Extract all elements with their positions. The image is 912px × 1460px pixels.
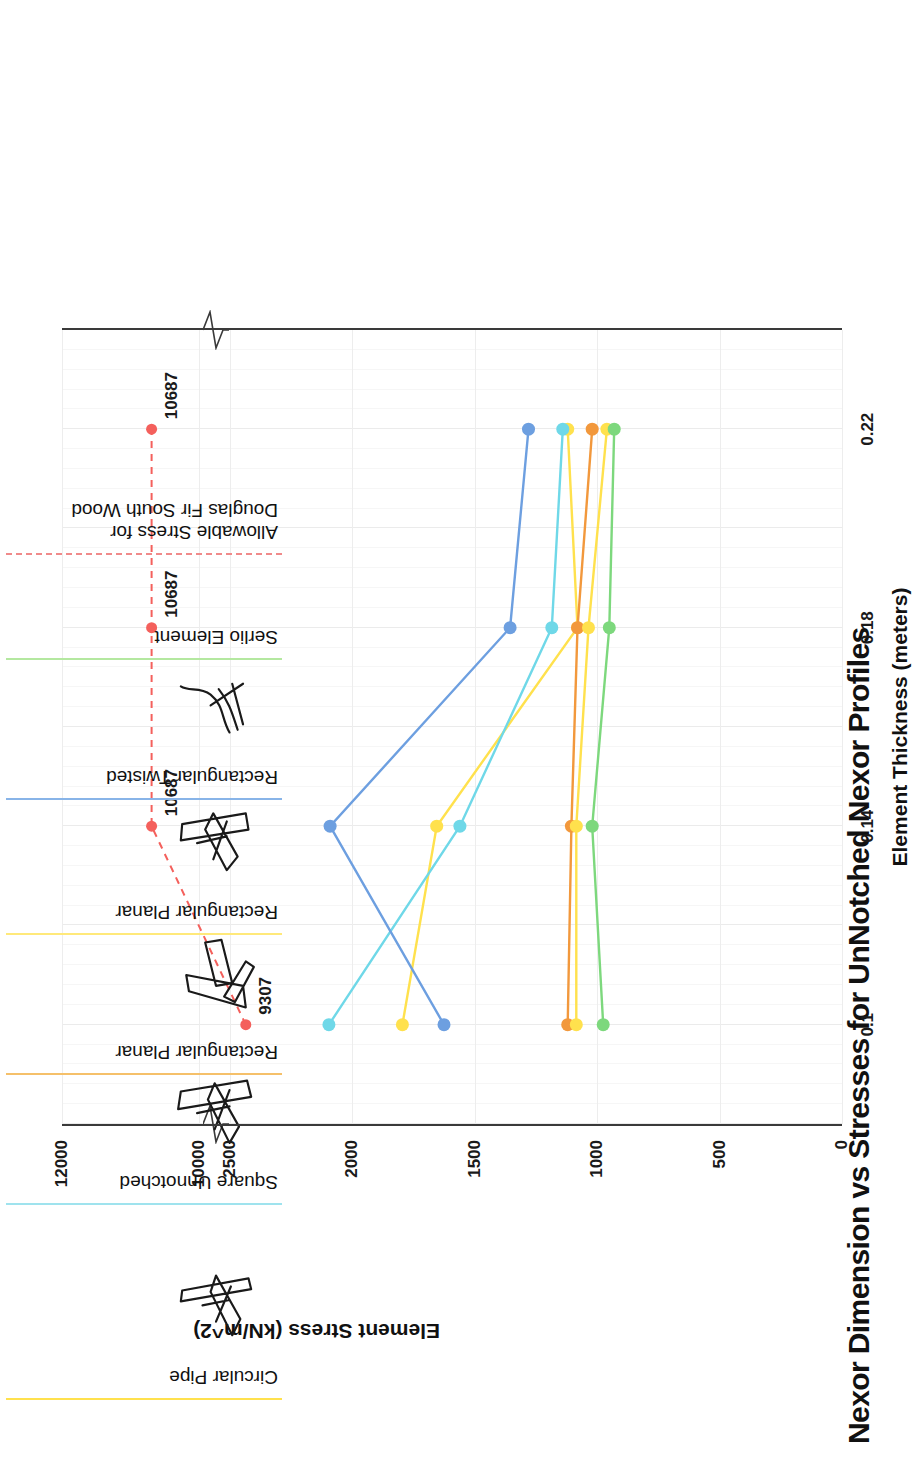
series-marker [322, 1018, 335, 1031]
legend-color-rule [6, 1398, 282, 1400]
legend-color-rule [6, 1073, 282, 1075]
stress-tick-label: 1000 [587, 1140, 607, 1178]
thickness-tick-label: 0.1 [858, 1013, 878, 1037]
thickness-tick-label: 0.22 [858, 413, 878, 446]
nexor-rectangular-twisted-icon [170, 654, 262, 746]
series-marker [453, 820, 466, 833]
series-marker [504, 621, 517, 634]
legend-color-rule [6, 658, 282, 660]
stress-tick-label: 500 [710, 1140, 730, 1168]
legend-color-rule [6, 1203, 282, 1205]
series-line [402, 429, 577, 1025]
legend-item-label: Rectangular Twisted [106, 766, 278, 788]
nexor-rectangular-planar-a-icon [170, 929, 262, 1021]
legend-item-label: Serlio Element [154, 626, 278, 648]
series-marker [570, 1018, 583, 1031]
page-title: Nexor Dimension vs Stresses for UnNotche… [842, 444, 876, 1444]
series-marker [324, 820, 337, 833]
legend-item[interactable]: Rectangular Twisted [0, 660, 290, 800]
series-marker [586, 423, 599, 436]
series-marker [545, 621, 558, 634]
series-line [576, 429, 607, 1025]
legend-item-label-line: Douglas Fir South Wood [71, 498, 278, 520]
legend-item[interactable]: Square Unnotched [0, 1065, 290, 1205]
stress-axis-spine-right [62, 328, 842, 330]
series-marker [438, 1018, 451, 1031]
legend-item-label: Rectangular Planar [115, 1041, 278, 1063]
legend-item[interactable]: Circular Pipe [0, 1260, 290, 1400]
series-line [329, 429, 563, 1025]
stress-tick-label: 1500 [465, 1140, 485, 1178]
legend-color-rule [6, 553, 282, 555]
series-marker [603, 621, 616, 634]
legend-item-label: Rectangular Planar [115, 901, 278, 923]
series-marker [396, 1018, 409, 1031]
series-line [592, 429, 614, 1025]
series-marker [522, 423, 535, 436]
legend-item-label: Allowable Stress forDouglas Fir South Wo… [71, 498, 278, 543]
legend-color-rule [6, 798, 282, 800]
nexor-circular-pipe-icon [170, 1254, 262, 1346]
series-marker [556, 423, 569, 436]
legend: Circular PipeSquare UnnotchedRectangular… [0, 0, 290, 1460]
legend-item[interactable]: Rectangular Planar [0, 795, 290, 935]
thickness-axis-title: Element Thickness (meters) [888, 588, 912, 867]
legend-item-label: Circular Pipe [169, 1366, 278, 1388]
series-marker [608, 423, 621, 436]
legend-item[interactable]: Allowable Stress forDouglas Fir South Wo… [0, 415, 290, 555]
stress-axis-spine-left [62, 1124, 842, 1126]
nexor-rectangular-planar-b-icon [170, 789, 262, 881]
stress-tick-label: 0 [832, 1140, 852, 1149]
series-marker [582, 621, 595, 634]
gridline-horizontal [842, 330, 843, 1124]
legend-item-label: Square Unnotched [120, 1171, 278, 1193]
thickness-tick-label: 0.18 [858, 611, 878, 644]
series-marker [597, 1018, 610, 1031]
stress-tick-label: 2000 [342, 1140, 362, 1178]
legend-item[interactable]: Rectangular Planar [0, 935, 290, 1075]
thickness-tick-label: 0.14 [858, 810, 878, 843]
legend-color-rule [6, 933, 282, 935]
legend-item-label-line: Allowable Stress for [71, 521, 278, 543]
series-line [330, 429, 528, 1025]
series-marker [570, 820, 583, 833]
series-marker [430, 820, 443, 833]
series-marker [586, 820, 599, 833]
